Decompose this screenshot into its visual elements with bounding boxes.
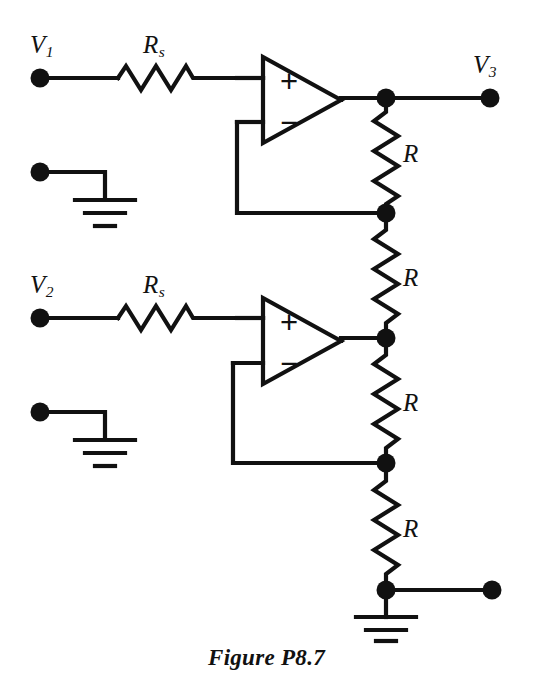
label-r3: R: [403, 390, 418, 415]
resistor-r2: [374, 213, 398, 338]
resistor-r1: [374, 98, 398, 213]
v3-terminal-dot: [481, 89, 500, 108]
resistor-r3: [374, 338, 398, 463]
wire-ground1: [40, 172, 105, 200]
label-r4: R: [403, 516, 418, 541]
opamp-top-plus-sign: +: [280, 64, 298, 99]
wire-ground2: [40, 412, 105, 440]
circuit-schematic: + − + −: [0, 0, 533, 691]
v2-terminal-dot: [31, 309, 50, 328]
label-rs-top: Rs: [143, 32, 165, 60]
node-fb-bottom-dot: [377, 454, 396, 473]
opamp-bottom-minus-sign: −: [280, 346, 298, 381]
opamp-bottom-body: [263, 298, 341, 384]
ground1-terminal-dot: [31, 163, 50, 182]
label-r1: R: [403, 141, 418, 166]
node-fb-top-dot: [377, 204, 396, 223]
label-v1: V1: [30, 32, 54, 60]
opamp-bottom-plus-sign: +: [280, 305, 298, 340]
label-r2: R: [403, 265, 418, 290]
node-v3-dot: [377, 89, 396, 108]
v1-terminal-dot: [31, 69, 50, 88]
opamp-top-body: [263, 57, 341, 143]
node-mid-dot: [377, 329, 396, 348]
label-v2: V2: [30, 272, 54, 300]
figure-caption: Figure P8.7: [0, 645, 533, 671]
node-bottom-dot: [377, 581, 396, 600]
bottom-right-terminal-dot: [483, 581, 502, 600]
figure-canvas: + − + − V1 Rs V3 V2 Rs R R R R Figure P8…: [0, 0, 533, 691]
wire-feedback-bottom: [233, 363, 386, 463]
label-rs-bottom: Rs: [143, 272, 165, 300]
opamp-top-minus-sign: −: [280, 105, 298, 140]
label-v3: V3: [473, 52, 497, 80]
resistor-r4: [374, 463, 398, 590]
wire-feedback-top: [237, 122, 386, 213]
ground2-terminal-dot: [31, 403, 50, 422]
